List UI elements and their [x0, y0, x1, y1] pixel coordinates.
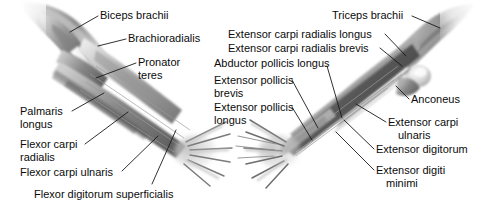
label-extensor-digiti-minimi-line2: minimi: [386, 177, 418, 190]
label-abductor-pollicis-longus: Abductor pollicis longus: [214, 57, 330, 70]
label-flexor-carpi-ulnaris: Flexor carpi ulnaris: [20, 166, 113, 179]
label-pronator-teres-line2: teres: [138, 69, 162, 82]
label-flexor-digitorum-superficialis: Flexor digitorum superficialis: [34, 188, 173, 201]
label-flexor-carpi-radialis-line1: Flexor carpi: [20, 138, 77, 151]
label-extensor-carpi-radialis-brevis: Extensor carpi radialis brevis: [228, 42, 369, 55]
anatomical-figure: Biceps brachii Brachioradialis Pronator …: [0, 0, 483, 210]
posterior-proximal-fade: [440, 0, 483, 44]
label-extensor-digitorum: Extensor digitorum: [376, 143, 468, 156]
label-pronator-teres-line1: Pronator: [138, 56, 180, 69]
label-anconeus: Anconeus: [411, 93, 460, 106]
label-biceps-brachii: Biceps brachii: [100, 9, 168, 22]
label-extensor-pollicis-longus-line1: Extensor pollicis: [214, 101, 293, 114]
label-extensor-carpi-radialis-longus: Extensor carpi radialis longus: [228, 28, 372, 41]
label-palmaris-longus-line1: Palmaris: [20, 105, 63, 118]
label-brachioradialis: Brachioradialis: [128, 32, 200, 45]
label-extensor-pollicis-brevis-line2: brevis: [214, 87, 243, 100]
label-extensor-digiti-minimi-line1: Extensor digiti: [376, 164, 445, 177]
label-extensor-carpi-ulnaris-line1: Extensor carpi: [388, 116, 458, 129]
label-triceps-brachii: Triceps brachii: [332, 9, 403, 22]
label-palmaris-longus-line2: longus: [20, 118, 52, 131]
label-extensor-carpi-ulnaris-line2: ulnaris: [398, 129, 430, 142]
olecranon-highlight: [415, 67, 427, 77]
label-extensor-pollicis-longus-line2: longus: [214, 114, 246, 127]
label-extensor-pollicis-brevis-line1: Extensor pollicis: [214, 74, 293, 87]
label-flexor-carpi-radialis-line2: radialis: [20, 151, 55, 164]
